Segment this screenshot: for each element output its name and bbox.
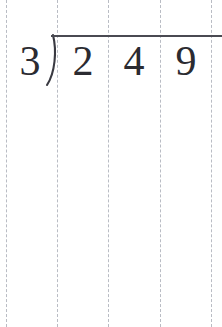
- divisor-digit: 3: [14, 36, 46, 86]
- dividend-digit-ones: 9: [161, 36, 211, 86]
- long-division-worksheet: 3 2 4 9: [0, 0, 222, 327]
- dividend-digit-hundreds: 2: [58, 36, 108, 86]
- dividend-digit-tens: 4: [109, 36, 159, 86]
- division-problem: 3 2 4 9: [0, 0, 222, 327]
